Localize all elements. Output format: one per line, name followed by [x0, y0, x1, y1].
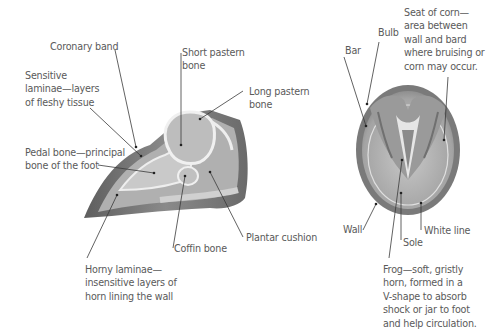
label-horny-laminae: Horny laminae— insensitive layers of hor…: [85, 263, 177, 303]
label-sole: Sole: [403, 236, 423, 249]
label-seat-of-corn: Seat of corn— area between wall and bard…: [404, 6, 485, 73]
label-wall: Wall: [343, 223, 362, 236]
label-long-pastern-bone: Long pastern bone: [249, 85, 309, 112]
label-coronary-band: Coronary band: [50, 40, 118, 53]
label-sensitive-laminae: Sensitive laminae—layers of fleshy tissu…: [25, 69, 99, 109]
label-bar: Bar: [345, 44, 361, 57]
label-pedal-bone: Pedal bone—principal bone of the foot: [25, 146, 125, 173]
label-white-line: White line: [424, 224, 470, 237]
label-bulb: Bulb: [378, 26, 399, 39]
label-plantar-cushion: Plantar cushion: [246, 231, 317, 244]
label-frog: Frog—soft, gristly horn, formed in a V-s…: [383, 263, 477, 330]
label-coffin-bone: Coffin bone: [174, 242, 227, 255]
hoof-underside: [356, 85, 460, 215]
label-short-pastern-bone: Short pastern bone: [182, 46, 245, 73]
